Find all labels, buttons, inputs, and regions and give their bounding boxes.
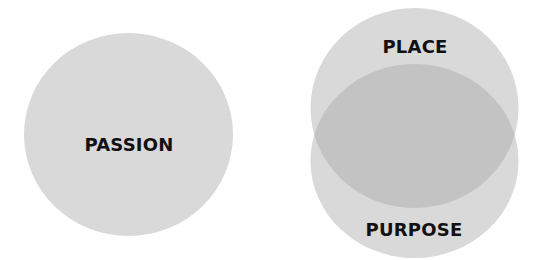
- place-label: PLACE: [382, 36, 447, 57]
- purpose-label: PURPOSE: [366, 219, 463, 240]
